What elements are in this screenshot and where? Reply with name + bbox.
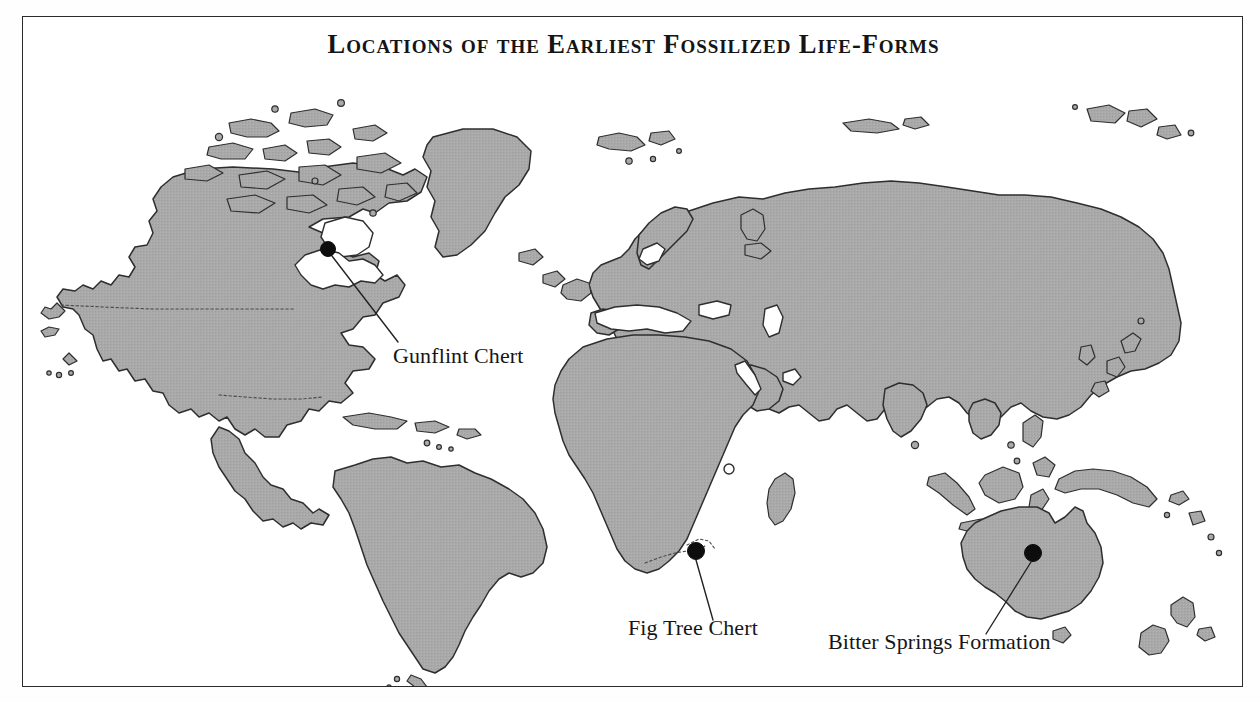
landmass-caribbean xyxy=(343,413,481,451)
site-dot-fig-tree[interactable] xyxy=(688,543,705,560)
site-label-bitter-springs: Bitter Springs Formation xyxy=(828,629,1051,654)
site-label-fig-tree: Fig Tree Chert xyxy=(628,615,758,640)
site-dot-bitter-springs[interactable] xyxy=(1025,545,1042,562)
landmass-australia xyxy=(961,507,1103,643)
site-label-gunflint: Gunflint Chert xyxy=(393,343,523,368)
landmass-new-zealand xyxy=(1139,597,1215,655)
world-map: Gunflint Chert Fig Tree Chert Bitter Spr… xyxy=(23,17,1243,687)
site-dot-gunflint[interactable] xyxy=(321,242,336,257)
landmass-alaska-aleutians xyxy=(41,303,77,378)
landmass-south-america xyxy=(333,457,547,687)
figure-root: Locations of the Earliest Fossilized Lif… xyxy=(0,0,1260,702)
leader-line-fig-tree xyxy=(696,560,713,620)
map-frame: Locations of the Earliest Fossilized Lif… xyxy=(22,16,1243,687)
landmass-greenland xyxy=(423,129,531,257)
